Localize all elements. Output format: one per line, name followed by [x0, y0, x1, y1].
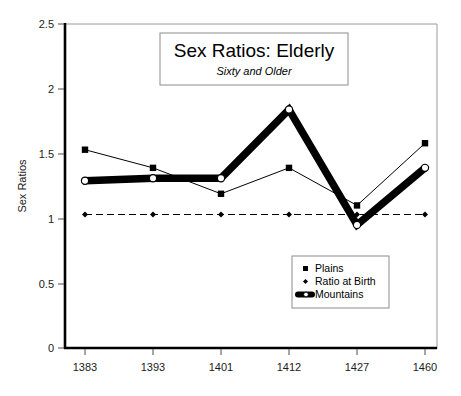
y-tick-label-2: 2 — [48, 83, 54, 95]
chart-container: 2.5 2 1.5 1 0.5 0 Sex Ratios 1383 1393 1… — [0, 0, 461, 396]
data-point-plains — [82, 147, 88, 153]
x-tick-label-1401: 1401 — [209, 361, 233, 373]
open-circle-marker-icon — [304, 292, 309, 297]
y-tick-label-2-5: 2.5 — [39, 18, 54, 30]
chart-legend[interactable]: Plains Ratio at Birth Mountains — [292, 256, 389, 308]
sex-ratios-line-chart: 2.5 2 1.5 1 0.5 0 Sex Ratios 1383 1393 1… — [0, 0, 461, 396]
legend-label-plains: Plains — [315, 262, 344, 274]
data-point-mountains — [149, 175, 156, 182]
y-tick-label-0-5: 0.5 — [39, 278, 54, 290]
y-axis-title: Sex Ratios — [16, 159, 28, 213]
x-tick-label-1393: 1393 — [141, 361, 165, 373]
page-title: Sex Ratios: Elderly — [174, 40, 335, 61]
x-tick-label-1460: 1460 — [413, 361, 437, 373]
square-marker-icon — [303, 266, 308, 271]
data-point-plains — [422, 140, 428, 146]
data-point-mountains — [421, 164, 428, 171]
data-point-mountains — [81, 177, 88, 184]
x-tick-label-1427: 1427 — [345, 361, 369, 373]
x-tick-label-1412: 1412 — [277, 361, 301, 373]
data-point-plains — [354, 202, 360, 208]
legend-label-ratio-at-birth: Ratio at Birth — [315, 275, 376, 287]
y-tick-label-1-5: 1.5 — [39, 148, 54, 160]
legend-label-mountains: Mountains — [315, 288, 363, 300]
data-point-plains — [150, 165, 156, 171]
chart-subtitle: Sixty and Older — [216, 65, 293, 77]
data-point-mountains — [285, 106, 292, 113]
y-tick-label-0: 0 — [48, 342, 54, 354]
data-point-plains — [286, 165, 292, 171]
data-point-mountains — [217, 175, 224, 182]
chart-title-box: Sex Ratios: Elderly Sixty and Older — [160, 33, 348, 85]
data-point-mountains — [353, 221, 360, 228]
x-tick-label-1383: 1383 — [73, 361, 97, 373]
y-tick-label-1: 1 — [48, 213, 54, 225]
data-point-plains — [218, 191, 224, 197]
